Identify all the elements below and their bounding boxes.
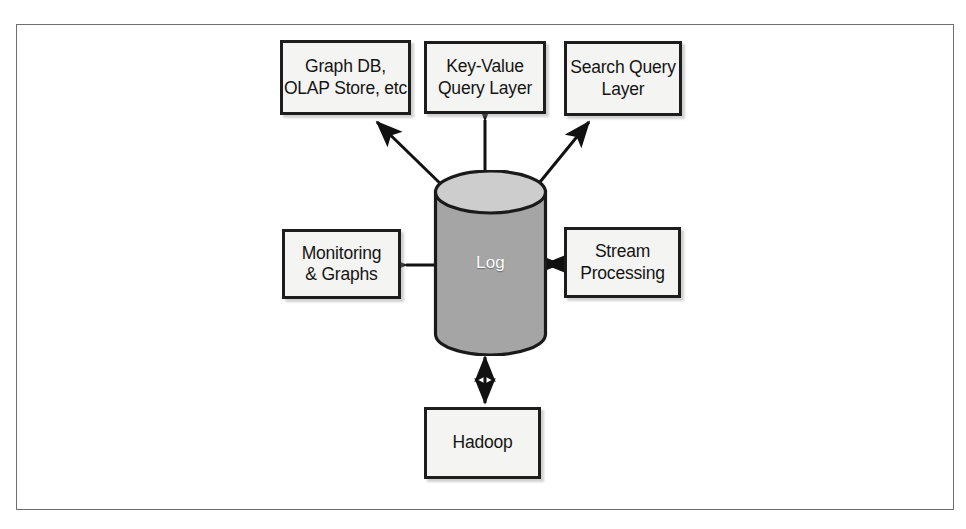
node-monitoring-line-2: & Graphs: [302, 264, 382, 285]
node-search-query-line-2: Layer: [570, 79, 676, 100]
node-monitoring-and-graphs[interactable]: Monitoring & Graphs: [282, 229, 401, 299]
node-graph-db[interactable]: Graph DB, OLAP Store, etc: [280, 40, 411, 115]
node-hadoop-line-1: Hadoop: [452, 432, 512, 453]
node-search-query-layer[interactable]: Search Query Layer: [564, 41, 682, 116]
node-search-query-line-1: Search Query: [570, 57, 676, 78]
node-stream-line-1: Stream: [580, 241, 665, 262]
node-key-value-line-1: Key-Value: [438, 56, 532, 77]
node-monitoring-line-1: Monitoring: [302, 243, 382, 264]
node-hadoop[interactable]: Hadoop: [424, 407, 541, 479]
node-key-value-query-layer[interactable]: Key-Value Query Layer: [424, 41, 546, 114]
node-key-value-line-2: Query Layer: [438, 78, 532, 99]
node-graph-db-line-1: Graph DB,: [284, 56, 407, 77]
node-stream-processing[interactable]: Stream Processing: [564, 227, 681, 298]
node-graph-db-line-2: OLAP Store, etc: [284, 78, 407, 99]
node-stream-line-2: Processing: [580, 263, 665, 284]
log-cylinder[interactable]: Log: [432, 170, 549, 356]
figure-root: Log Graph DB, OLAP Store, etc Key-Value …: [0, 0, 966, 529]
